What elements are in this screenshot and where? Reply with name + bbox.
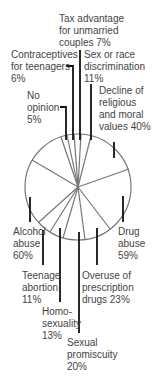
label-overuse: Overuse of prescription drugs 23% bbox=[82, 270, 134, 306]
label-alcohol: Alcohol abuse 60% bbox=[13, 226, 46, 262]
leader-noop bbox=[60, 107, 66, 140]
label-teenage-abortion: Teenage abortion 11% bbox=[22, 270, 60, 306]
label-sexual-promiscuity: Sexual promiscuity 20% bbox=[67, 337, 118, 373]
label-contraceptives: Contraceptives for teenagers 6% bbox=[11, 49, 78, 85]
label-decline: Decline of religious and moral values 40… bbox=[99, 85, 151, 133]
label-drug: Drug abuse 59% bbox=[118, 226, 145, 262]
label-sex-race: Sex or race discrimination 11% bbox=[84, 49, 145, 85]
label-no-opinion: No opinion 5% bbox=[27, 90, 59, 126]
label-tax: Tax advantage for unmarried couples 7% bbox=[59, 13, 124, 49]
